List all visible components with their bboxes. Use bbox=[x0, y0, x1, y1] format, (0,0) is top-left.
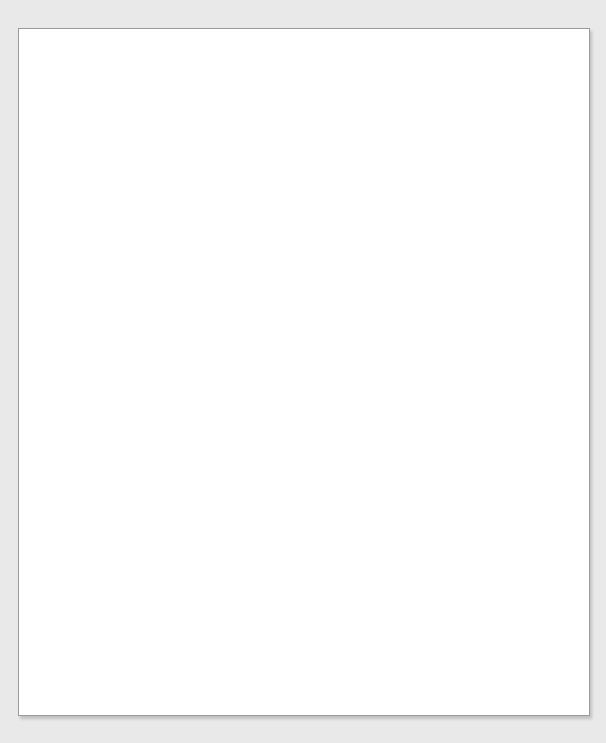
top-caption bbox=[0, 0, 606, 14]
chapter-map-frame bbox=[18, 28, 590, 716]
connector-lines bbox=[19, 29, 589, 715]
